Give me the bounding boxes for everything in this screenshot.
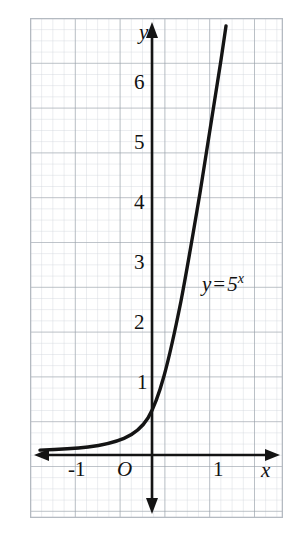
equation-base: 5 — [227, 272, 238, 296]
y-tick-label-2: 2 — [134, 312, 145, 333]
equation-exponent: x — [238, 271, 244, 286]
origin-label: O — [117, 459, 132, 480]
x-axis-label: x — [261, 460, 270, 481]
y-tick-label-4: 4 — [134, 192, 145, 213]
y-axis-down-arrowhead — [146, 498, 158, 514]
x-tick-label-1: 1 — [213, 459, 224, 480]
y-tick-label-6: 6 — [134, 72, 145, 93]
y-tick-label-1: 1 — [137, 372, 148, 393]
y-tick-label-5: 5 — [134, 132, 145, 153]
equation-variable: y — [202, 272, 211, 296]
function-curve — [40, 26, 226, 450]
graph-figure: y x O 6 5 4 3 2 1 -1 1 y=5x — [0, 0, 300, 538]
y-axis — [146, 22, 158, 514]
y-axis-label: y — [139, 22, 148, 43]
plot-frame — [30, 18, 283, 518]
y-tick-label-3: 3 — [134, 252, 145, 273]
x-tick-label-minus-1: -1 — [68, 459, 86, 480]
curve-equation-label: y=5x — [202, 272, 244, 295]
axes-and-curve — [30, 18, 283, 518]
equation-operator: = — [211, 272, 227, 296]
